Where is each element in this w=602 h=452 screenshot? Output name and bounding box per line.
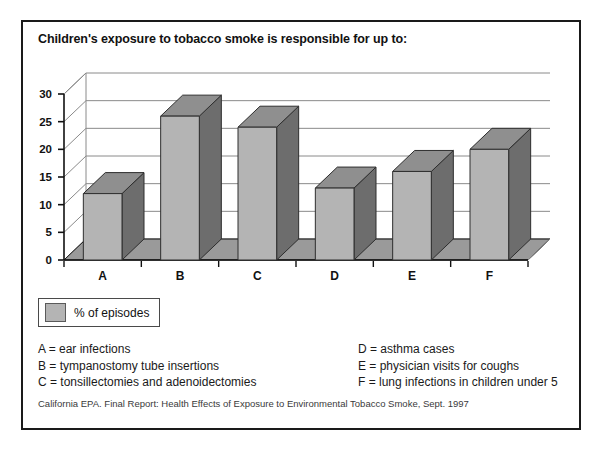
x-axis-tick-label: C — [253, 269, 262, 283]
chart-title: Children's exposure to tobacco smoke is … — [38, 32, 407, 46]
x-axis-tick-label: E — [408, 269, 416, 283]
source-citation: California EPA. Final Report: Health Eff… — [38, 398, 469, 409]
key-item: E = physician visits for coughs — [358, 358, 558, 375]
y-axis-tick-label: 10 — [26, 199, 52, 211]
key-item: B = tympanostomy tube insertions — [38, 358, 256, 375]
x-axis-tick-label: F — [486, 269, 493, 283]
key-item: F = lung infections in children under 5 — [358, 374, 558, 391]
bar-chart-svg — [36, 60, 566, 282]
key-column-right: D = asthma cases E = physician visits fo… — [358, 341, 558, 391]
legend-label: % of episodes — [74, 306, 149, 320]
key-column-left: A = ear infections B = tympanostomy tube… — [38, 341, 256, 391]
chart-page: Children's exposure to tobacco smoke is … — [0, 0, 602, 452]
key-item: D = asthma cases — [358, 341, 558, 358]
legend-swatch-percent-episodes — [45, 303, 66, 322]
y-axis-tick-label: 5 — [26, 226, 52, 238]
y-axis-tick-label: 20 — [26, 143, 52, 155]
plot-area: 051015202530ABCDEF — [36, 60, 566, 282]
y-axis-tick-label: 30 — [26, 88, 52, 100]
key-item: A = ear infections — [38, 341, 256, 358]
chart-legend: % of episodes — [38, 298, 160, 327]
x-axis-tick-label: B — [176, 269, 185, 283]
y-axis-tick-label: 25 — [26, 116, 52, 128]
y-axis-tick-label: 15 — [26, 171, 52, 183]
y-axis-tick-label: 0 — [26, 254, 52, 266]
key-item: C = tonsillectomies and adenoidectomies — [38, 374, 256, 391]
x-axis-tick-label: D — [330, 269, 339, 283]
x-axis-tick-label: A — [98, 269, 107, 283]
